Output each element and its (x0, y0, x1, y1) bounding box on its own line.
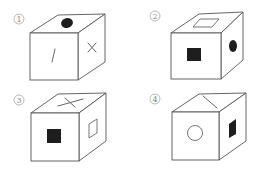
cube-2 (171, 12, 243, 79)
option-4[interactable]: 4 (150, 93, 246, 160)
svg-text:4: 4 (152, 95, 157, 104)
cube-3 (31, 93, 106, 161)
option-label-1: 1 (14, 14, 24, 24)
cube-1 (30, 14, 105, 80)
option-2[interactable]: 2 (150, 11, 243, 79)
cube-options-figure: 1 2 3 (0, 0, 260, 169)
option-label-4: 4 (150, 94, 160, 104)
option-label-3: 3 (14, 95, 24, 105)
svg-text:3: 3 (16, 96, 21, 105)
option-1[interactable]: 1 (14, 14, 105, 80)
option-3[interactable]: 3 (14, 93, 106, 161)
svg-text:2: 2 (152, 12, 157, 21)
filled-square-icon (187, 48, 201, 61)
svg-text:1: 1 (16, 15, 21, 24)
cube-4-front-face (172, 112, 219, 160)
cube-1-front-face (30, 33, 78, 80)
filled-square-icon (47, 129, 61, 143)
filled-circle-icon (229, 40, 237, 52)
option-label-2: 2 (150, 11, 160, 21)
cube-4 (172, 93, 246, 160)
